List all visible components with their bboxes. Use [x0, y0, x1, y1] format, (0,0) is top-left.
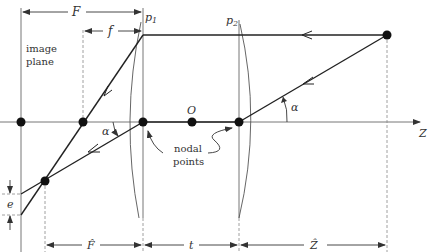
label-p2: p2 [226, 14, 238, 28]
label-f: f [107, 24, 115, 38]
label-Z: Z [418, 127, 427, 140]
label-nodal: nodal [174, 143, 202, 154]
focal-point [79, 118, 88, 127]
label-image-plane-2: plane [26, 56, 54, 67]
image-point [41, 177, 50, 186]
label-points: points [173, 156, 204, 167]
label-F: F [71, 5, 81, 19]
label-F-hat: F̂ [86, 239, 95, 252]
nodal-point-2 [235, 118, 244, 127]
center-point-O [188, 118, 197, 127]
label-O: O [187, 104, 196, 117]
ray-nodal [21, 35, 387, 194]
label-p1: p1 [145, 11, 157, 25]
nodal-pointer-right [208, 128, 232, 153]
object-point [383, 31, 392, 40]
alpha-arc-left [113, 122, 118, 136]
image-plane-axis-point [17, 118, 26, 127]
ray-parallel [21, 31, 387, 215]
thick-lens-diagram: F f p1 p2 image plane O Z α α nodal poin… [0, 0, 432, 252]
label-t: t [189, 239, 194, 252]
label-e: e [7, 198, 14, 211]
nodal-point-1 [139, 118, 148, 127]
nodal-pointer-left [148, 131, 163, 153]
label-Z-hat: Ẑ [309, 238, 318, 252]
label-alpha-left: α [102, 125, 110, 138]
label-alpha-right: α [291, 101, 299, 114]
label-image-plane-1: image [26, 43, 57, 54]
